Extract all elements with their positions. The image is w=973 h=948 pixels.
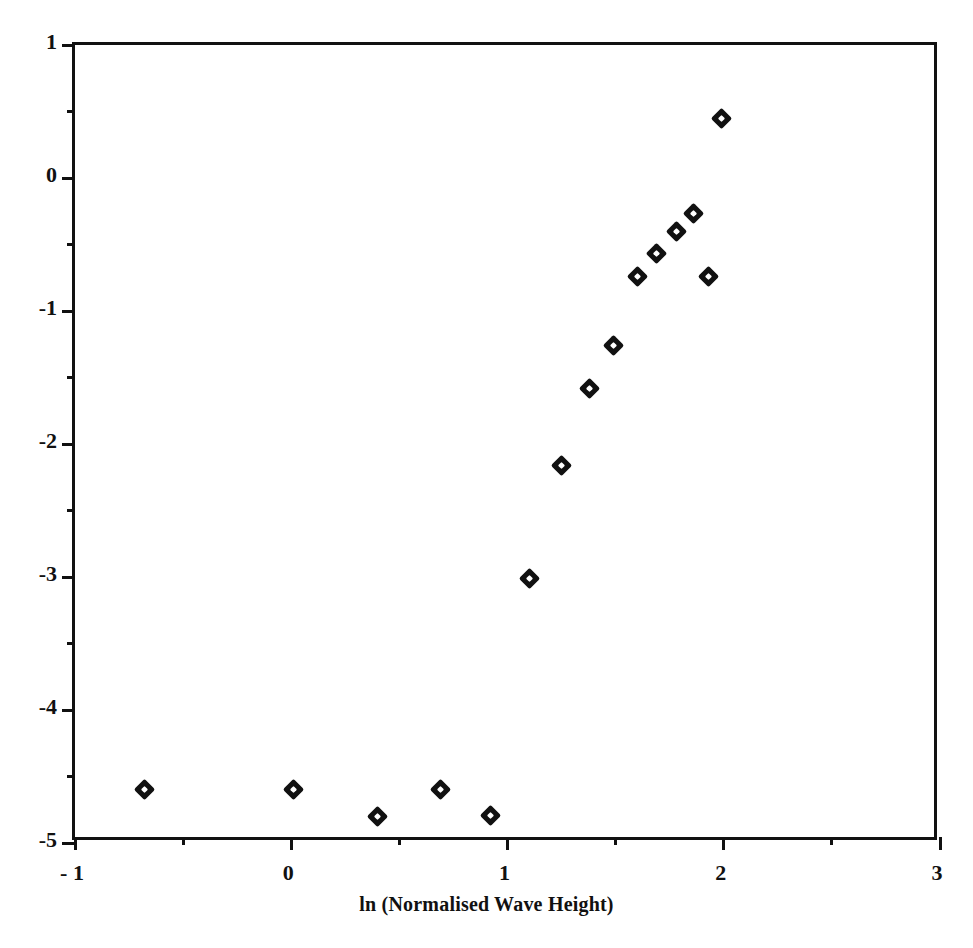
x-tick-label: - 1 [60,862,84,884]
x-tick-label: 0 [283,862,294,884]
x-tick-label: 1 [499,862,510,884]
x-tick-label: 2 [715,862,726,884]
x-axis-tick-labels: - 10123 [0,0,973,948]
x-axis-title: ln (Normalised Wave Height) [0,893,973,916]
scatter-chart-figure: 10-1-2-3-4-5 - 10123 ln (Normalised Wave… [0,0,973,948]
x-tick-label: 3 [932,862,943,884]
